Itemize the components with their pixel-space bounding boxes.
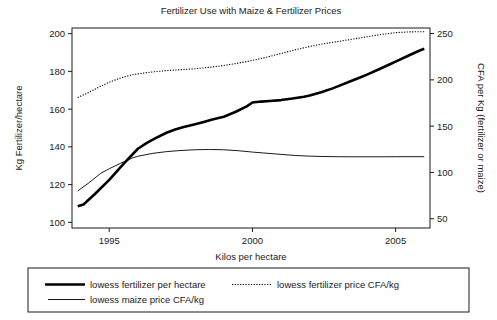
y-axis-tick-label-right: 150 <box>437 121 453 132</box>
y-axis-title-left: Kg Fertilizer/hectare <box>13 85 24 170</box>
y-axis-tick-label-right: 250 <box>437 28 453 39</box>
y-axis-tick-label-left: 100 <box>49 217 65 228</box>
legend-label-2: lowess fertilizer price CFA/kg <box>277 279 399 290</box>
x-axis-tick-label: 1995 <box>99 235 120 246</box>
y-axis-tick-label-left: 140 <box>49 141 65 152</box>
fertilizer-price-line-chart: Fertilizer Use with Maize & Fertilizer P… <box>0 0 497 320</box>
legend-label-1: lowess fertilizer per hectare <box>90 279 206 290</box>
series-line-fertilizer-price <box>78 32 425 98</box>
y-axis-tick-label-right: 100 <box>437 167 453 178</box>
y-axis-tick-label-right: 200 <box>437 74 453 85</box>
chart-title: Fertilizer Use with Maize & Fertilizer P… <box>161 5 342 16</box>
legend-box <box>28 268 469 312</box>
y-axis-tick-label-right: 50 <box>437 213 448 224</box>
x-axis-title: Kilos per hectare <box>215 251 286 262</box>
x-axis-tick-label: 2005 <box>385 235 406 246</box>
plot-frame <box>72 28 430 228</box>
y-axis-title-right: CFA per Kg (fertilizer or maize) <box>476 63 487 193</box>
y-axis-tick-label-left: 160 <box>49 104 65 115</box>
chart-figure: Fertilizer Use with Maize & Fertilizer P… <box>0 0 497 320</box>
y-axis-tick-label-left: 120 <box>49 179 65 190</box>
legend-label-3: lowess maize price CFA/kg <box>90 294 204 305</box>
y-axis-tick-label-left: 180 <box>49 66 65 77</box>
series-line-fertilizer-per-hectare <box>78 49 425 207</box>
x-axis-tick-label: 2000 <box>242 235 263 246</box>
y-axis-tick-label-left: 200 <box>49 28 65 39</box>
